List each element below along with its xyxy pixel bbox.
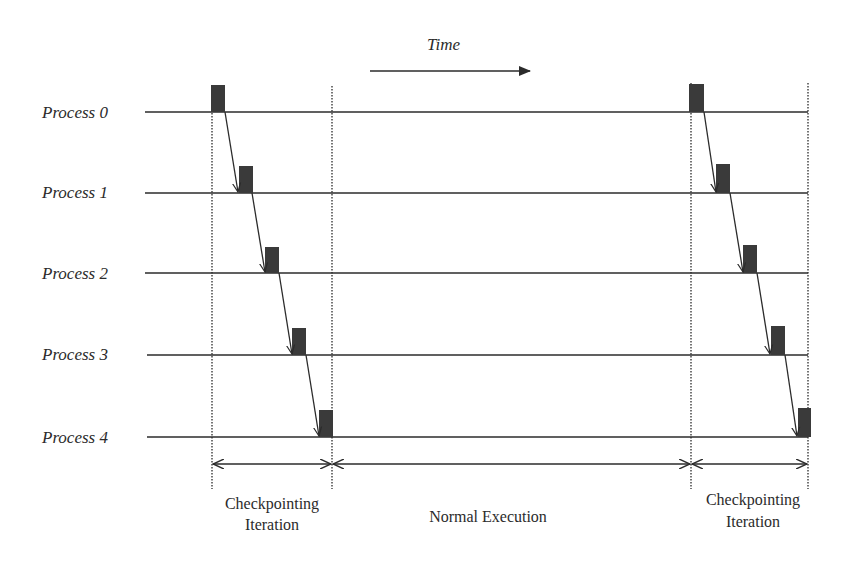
process-label: Process 4 [41,428,108,447]
process-label: Process 3 [41,345,108,364]
time-label: Time [427,35,461,54]
checkpoint-block [798,408,811,437]
checkpoint-group-2 [689,84,811,437]
time-axis: Time [370,35,530,71]
message-arrow [279,273,292,354]
message-arrow [704,112,716,192]
message-arrow [306,355,319,436]
checkpoint-block [292,328,306,355]
checkpoint-block [319,410,333,437]
checkpoint-block [265,247,279,273]
process-lane-4: Process 4 [41,428,808,447]
process-label: Process 0 [41,103,108,122]
checkpoint-block [743,245,757,273]
checkpoint-timeline-diagram: Time Process 0 Process 1 Process 2 Proce… [0,0,850,561]
checkpoint-group-1 [211,85,333,437]
process-lane-2: Process 2 [41,264,808,283]
phase-label-checkpointing-1-line1: Checkpointing [225,495,319,513]
phase-label-checkpointing-1-line2: Iteration [245,516,299,533]
phase-label-checkpointing-2-line1: Checkpointing [706,491,800,509]
process-label: Process 2 [41,264,108,283]
checkpoint-block [771,326,785,355]
checkpoint-block [211,85,225,112]
checkpoint-block [689,84,704,112]
message-arrow [757,273,770,354]
checkpoint-block [239,166,253,193]
checkpoint-block [716,164,730,193]
phase-label-checkpointing-2-line2: Iteration [726,513,780,530]
process-lanes: Process 0 Process 1 Process 2 Process 3 … [41,103,808,447]
phase-labels: Checkpointing Iteration Normal Execution… [225,491,800,533]
message-arrow [252,193,265,272]
message-arrow [730,193,743,272]
process-label: Process 1 [41,183,108,202]
phase-boundaries [212,83,808,489]
process-lane-3: Process 3 [41,345,808,364]
process-lane-1: Process 1 [41,183,808,202]
message-arrow [225,112,238,192]
message-arrow [785,355,797,436]
phase-label-normal-execution: Normal Execution [429,508,547,525]
